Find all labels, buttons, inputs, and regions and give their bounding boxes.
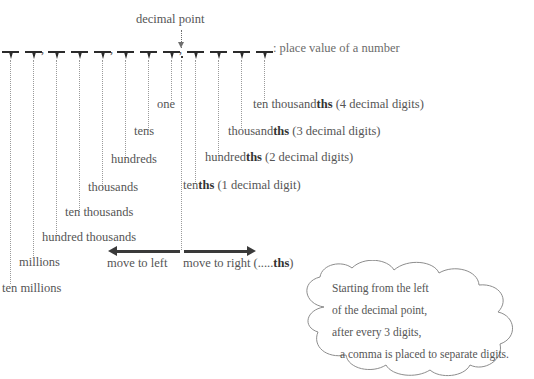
place-value-diagram: decimal point , , , : place value of a n…: [0, 0, 534, 379]
leader-line-hundred-thousands: [56, 60, 57, 234]
tick-mark-ten-thousands: [71, 51, 88, 60]
place-label-ten-thousands: ten thousands: [65, 205, 133, 219]
cloud-callout: Starting from the left of the decimal po…: [288, 260, 534, 379]
tick-mark-tenths: [187, 51, 204, 60]
move-to-right-label-suffix: ths: [273, 256, 289, 270]
leader-line-millions: [33, 60, 34, 256]
leader-line-thousands: [102, 60, 103, 190]
cloud-text-line-4: a comma is placed to separate digits.: [340, 348, 509, 361]
tick-mark-hundreds: [117, 51, 134, 60]
move-to-right-arrow: [184, 246, 256, 256]
leader-line-thousandths: [241, 60, 242, 128]
place-label-tenths-detail: (1 decimal digit): [214, 178, 300, 192]
tick-mark-millions: [25, 51, 42, 60]
leader-line-ten-millions: [10, 60, 11, 284]
move-to-right-label-prefix: move to right (.....: [183, 256, 273, 270]
tick-mark-tens: [140, 51, 157, 60]
tick-mark-one: [163, 51, 180, 60]
place-value-caption: : place value of a number: [273, 41, 400, 55]
cloud-text-line-3: after every 3 digits,: [332, 326, 421, 339]
place-label-tens: tens: [134, 124, 154, 138]
place-label-ten-thousandths-suffix: ths: [317, 97, 333, 111]
place-label-hundreds: hundreds: [111, 152, 157, 166]
move-to-left-arrow: [108, 246, 180, 256]
leader-line-hundredths: [218, 60, 219, 156]
place-label-tenths-suffix: ths: [198, 178, 214, 192]
comma-separator-2: ,: [110, 44, 113, 54]
comma-separator-3: ,: [179, 44, 182, 54]
place-label-hundredths-suffix: ths: [246, 150, 262, 164]
place-label-ten-thousandths-prefix: ten thousand: [253, 97, 317, 111]
leader-line-ten-thousands: [79, 60, 80, 212]
place-label-ten-thousandths-detail: (4 decimal digits): [333, 97, 424, 111]
move-to-right-label: move to right (.....ths): [183, 256, 293, 270]
leader-line-tenths: [195, 60, 196, 184]
place-label-thousandths-detail: (3 decimal digits): [289, 124, 380, 138]
place-label-ten-thousandths: ten thousandths (4 decimal digits): [253, 97, 424, 111]
place-label-millions: millions: [19, 255, 60, 269]
place-label-thousandths-prefix: thousand: [228, 124, 273, 138]
tick-mark-thousands: [94, 51, 111, 60]
place-label-thousandths: thousandths (3 decimal digits): [228, 124, 380, 138]
leader-line-tens: [148, 60, 149, 130]
comma-separator-1: ,: [41, 44, 44, 54]
tick-mark-thousandths: [233, 51, 250, 60]
leader-line-one: [171, 60, 172, 100]
tick-mark-hundred-thousands: [48, 51, 65, 60]
cloud-text-line-2: of the decimal point,: [332, 304, 427, 317]
tick-mark-ten-thousandths: [256, 51, 273, 60]
place-label-ten-millions: ten millions: [2, 281, 61, 295]
place-label-tenths: tenths (1 decimal digit): [183, 178, 301, 192]
place-label-tenths-prefix: ten: [183, 178, 198, 192]
decimal-point-label: decimal point: [136, 12, 204, 26]
place-label-hundredths-detail: (2 decimal digits): [262, 150, 353, 164]
place-label-thousands: thousands: [88, 180, 138, 194]
leader-line-ten-thousandths: [264, 60, 265, 100]
place-label-hundredths-prefix: hundred: [205, 150, 246, 164]
leader-line-decimal-boundary: [181, 60, 182, 250]
place-label-hundredths: hundredths (2 decimal digits): [205, 150, 353, 164]
place-label-hundred-thousands: hundred thousands: [42, 230, 136, 244]
cloud-shape-icon: [288, 260, 534, 379]
leader-line-hundreds: [125, 60, 126, 160]
move-to-left-label: move to left: [107, 256, 167, 270]
tick-mark-ten-millions: [2, 51, 19, 60]
cloud-text-line-1: Starting from the left: [332, 282, 429, 295]
decimal-point-dot: [181, 56, 183, 58]
tick-mark-hundredths: [210, 51, 227, 60]
place-label-one: one: [157, 97, 175, 111]
place-label-thousandths-suffix: ths: [273, 124, 289, 138]
